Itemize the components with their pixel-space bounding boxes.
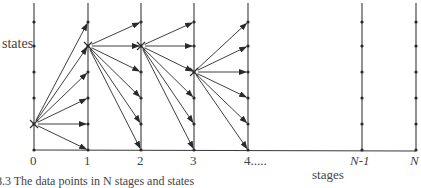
state-node [86,20,89,23]
state-node [139,96,142,99]
transition-arrow [198,47,247,70]
transition-arrow [197,75,247,123]
state-node [360,44,363,47]
transition-arrow [90,49,140,122]
transition-arrow [145,23,193,45]
state-node [246,44,249,47]
state-node [246,70,249,73]
state-node [86,96,89,99]
state-node [86,70,89,73]
state-node [86,148,89,151]
state-node [192,20,195,23]
transition-arrow [92,23,140,45]
state-node [360,20,363,23]
state-node [414,122,417,125]
state-node [246,148,249,151]
transition-arrow [37,73,87,121]
stage-label-n: N [410,153,419,169]
state-node [192,96,195,99]
state-node [414,96,417,99]
state-node [32,70,35,73]
state-nodes [32,20,417,151]
transition-arrow [38,99,87,122]
state-node [32,96,35,99]
state-node [246,20,249,23]
transition-arrow [38,126,87,149]
stage-label-4: 4..... [244,153,267,169]
state-node [360,122,363,125]
figure-caption: 8.3 The data points in N stages and stat… [0,174,194,188]
stage-label-1: 1 [84,153,91,169]
state-node [139,148,142,151]
state-node [414,70,417,73]
state-node [192,148,195,151]
transition-arrow [143,50,193,149]
transition-arrow [143,49,193,122]
stage-axis [34,150,416,151]
state-node [246,96,249,99]
state-node [139,70,142,73]
state-node [414,44,417,47]
stage-label-3: 3 [190,153,197,169]
state-node [86,122,89,125]
transition-arrow [144,49,193,97]
state-node [139,122,142,125]
stage-label-n-minus-1: N-1 [350,153,370,169]
transition-arrow [91,49,140,97]
transition-arrow [198,74,247,97]
state-node [360,70,363,73]
transition-arrow [36,24,87,121]
state-node [414,20,417,23]
transition-arrow [90,50,140,149]
state-node [246,122,249,125]
transition-arrow [196,75,247,148]
state-node [360,96,363,99]
stage-label-2: 2 [137,153,144,169]
state-node [414,148,417,151]
state-node [139,20,142,23]
state-node [192,44,195,47]
x-axis-label: stages [312,167,344,183]
stage-label-0: 0 [30,153,37,169]
state-node [32,20,35,23]
axes [34,3,416,151]
state-node [360,148,363,151]
transition-arrow [36,48,87,121]
state-node [192,122,195,125]
state-node [32,148,35,151]
y-axis-label: states [2,36,33,52]
transition-arrow [197,23,247,69]
